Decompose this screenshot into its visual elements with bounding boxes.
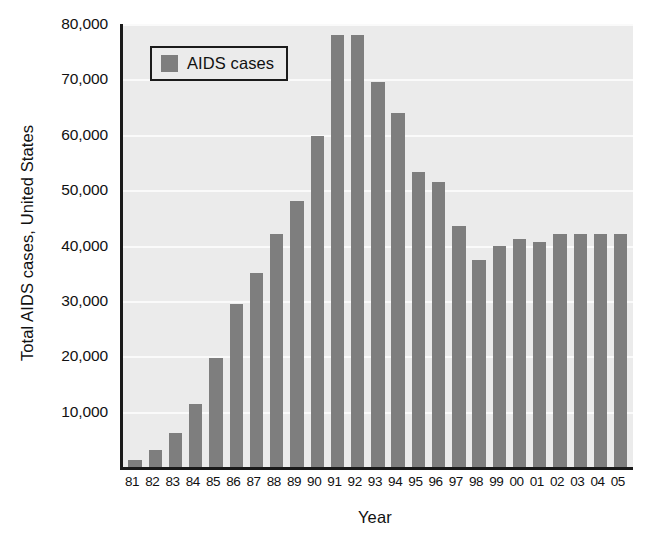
bar-slot [469, 24, 489, 467]
x-axis-tick-label: 94 [385, 474, 405, 496]
bar-99[interactable] [493, 246, 506, 468]
bar-94[interactable] [391, 113, 404, 467]
bar-slot [530, 24, 550, 467]
x-axis-tick-label: 90 [304, 474, 324, 496]
y-axis-tick-label: 80,000 [61, 15, 108, 33]
x-axis-tick-label: 83 [162, 474, 182, 496]
bar-slot [570, 24, 590, 467]
x-axis-tick-label: 92 [345, 474, 365, 496]
bar-90[interactable] [311, 136, 324, 467]
bar-96[interactable] [432, 182, 445, 467]
legend-label-aids-cases: AIDS cases [187, 54, 274, 73]
bar-slot [388, 24, 408, 467]
bar-05[interactable] [614, 234, 627, 467]
bar-slot [509, 24, 529, 467]
x-axis-tick-label: 95 [405, 474, 425, 496]
bar-slot [307, 24, 327, 467]
bar-slot [287, 24, 307, 467]
bar-slot [145, 24, 165, 467]
x-axis-tick-label: 01 [527, 474, 547, 496]
bar-slot [550, 24, 570, 467]
x-axis-tick-label: 93 [365, 474, 385, 496]
bar-02[interactable] [553, 234, 566, 467]
bar-82[interactable] [149, 450, 162, 467]
bar-slot [429, 24, 449, 467]
y-axis-tick-label: 50,000 [61, 181, 108, 199]
bar-95[interactable] [412, 172, 425, 467]
x-axis-tick-label: 97 [446, 474, 466, 496]
bar-slot [125, 24, 145, 467]
bar-slot [186, 24, 206, 467]
x-axis-tick-label: 82 [142, 474, 162, 496]
x-axis-title: Year [120, 508, 630, 527]
bar-slot [611, 24, 631, 467]
x-axis-tick-label: 85 [203, 474, 223, 496]
bar-87[interactable] [250, 273, 263, 467]
bar-slot [206, 24, 226, 467]
x-axis-tick-labels: 8182838485868788899091929394959697989900… [120, 474, 630, 496]
x-axis-tick-label: 87 [243, 474, 263, 496]
bar-slot [368, 24, 388, 467]
bar-88[interactable] [270, 234, 283, 467]
bar-slot [267, 24, 287, 467]
y-axis-tick-label: 60,000 [61, 126, 108, 144]
bar-slot [327, 24, 347, 467]
aids-cases-bar-chart: Total AIDS cases, United States 80,00070… [0, 0, 653, 548]
bar-00[interactable] [513, 239, 526, 467]
bar-83[interactable] [169, 433, 182, 467]
bar-92[interactable] [351, 35, 364, 467]
bars-layer [123, 24, 633, 467]
bar-slot [489, 24, 509, 467]
plot-area: AIDS cases [120, 24, 633, 470]
bar-04[interactable] [594, 234, 607, 467]
bar-slot [226, 24, 246, 467]
chart-legend: AIDS cases [150, 46, 288, 81]
bar-97[interactable] [452, 226, 465, 467]
bar-89[interactable] [290, 201, 303, 467]
bar-84[interactable] [189, 404, 202, 467]
bar-85[interactable] [209, 358, 222, 467]
bar-slot [590, 24, 610, 467]
x-axis-tick-label: 88 [264, 474, 284, 496]
y-axis-tick-label: 40,000 [61, 237, 108, 255]
y-axis-tick-label: 10,000 [61, 403, 108, 421]
y-axis-tick-label: 70,000 [61, 70, 108, 88]
y-axis-tick-label: 20,000 [61, 347, 108, 365]
x-axis-tick-label: 89 [284, 474, 304, 496]
x-axis-tick-label: 03 [567, 474, 587, 496]
bar-slot [165, 24, 185, 467]
bar-01[interactable] [533, 242, 546, 467]
x-axis-tick-label: 86 [223, 474, 243, 496]
x-axis-tick-label: 84 [183, 474, 203, 496]
bar-slot [449, 24, 469, 467]
bar-slot [348, 24, 368, 467]
x-axis-tick-label: 96 [426, 474, 446, 496]
y-axis-tick-label: 30,000 [61, 292, 108, 310]
legend-swatch-aids-cases [161, 55, 178, 72]
x-axis-tick-label: 02 [547, 474, 567, 496]
bar-slot [246, 24, 266, 467]
x-axis-tick-label: 81 [122, 474, 142, 496]
bar-93[interactable] [371, 82, 384, 467]
bar-slot [408, 24, 428, 467]
x-axis-tick-label: 99 [486, 474, 506, 496]
bar-81[interactable] [128, 460, 141, 467]
x-axis-tick-label: 04 [587, 474, 607, 496]
x-axis-tick-label: 00 [506, 474, 526, 496]
x-axis-tick-label: 91 [324, 474, 344, 496]
x-axis-tick-label: 98 [466, 474, 486, 496]
y-axis-tick-labels: 80,00070,00060,00050,00040,00030,00020,0… [38, 0, 114, 548]
bar-03[interactable] [574, 234, 587, 467]
bar-86[interactable] [230, 304, 243, 467]
bar-98[interactable] [472, 260, 485, 467]
bar-91[interactable] [331, 35, 344, 467]
x-axis-tick-label: 05 [608, 474, 628, 496]
